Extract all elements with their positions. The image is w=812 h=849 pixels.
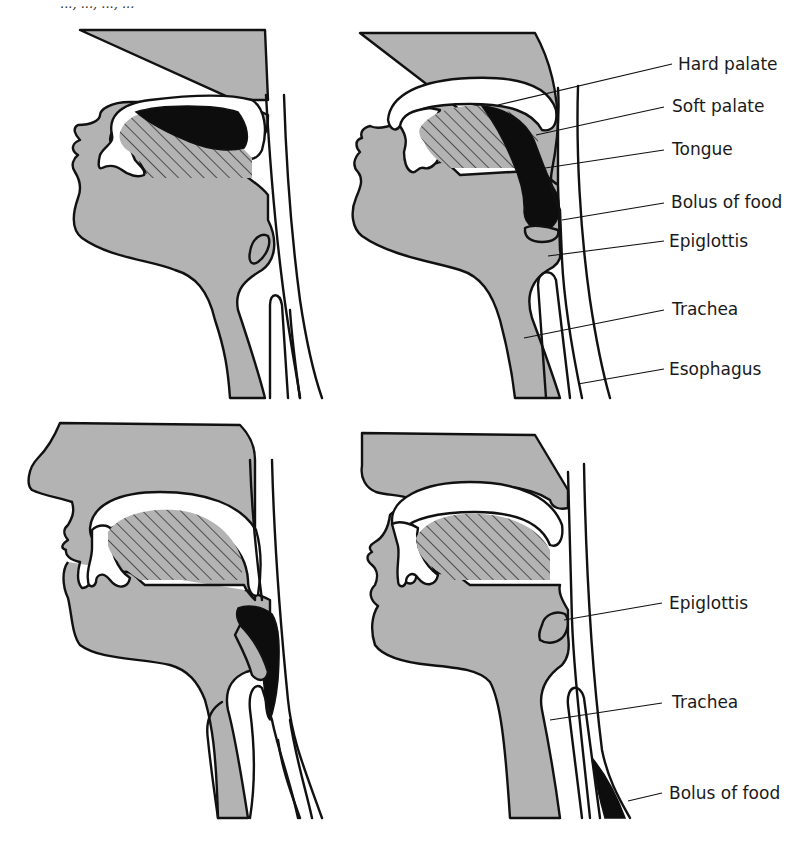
panel-bottom-left [29,423,322,818]
label-epiglottis-bottom: Epiglottis [669,593,748,613]
panel-top-left [73,30,322,398]
head-tissue [29,423,270,818]
epiglottis [525,226,558,242]
label-bolus-of-food-bottom: Bolus of food [669,783,780,803]
label-soft-palate: Soft palate [672,96,764,116]
label-trachea-bottom: Trachea [671,692,738,712]
swallowing-diagram: ..., ..., ..., ... [0,0,812,849]
head-tissue [73,30,275,398]
label-tongue: Tongue [671,139,733,159]
bolus-of-food [592,758,625,818]
caption-fragment: ..., ..., ..., ... [60,0,134,11]
label-esophagus: Esophagus [669,359,762,379]
label-bolus-of-food: Bolus of food [671,192,782,212]
label-hard-palate: Hard palate [678,54,778,74]
panel-bottom-right [362,433,630,818]
label-epiglottis: Epiglottis [669,231,748,251]
label-trachea: Trachea [671,299,738,319]
